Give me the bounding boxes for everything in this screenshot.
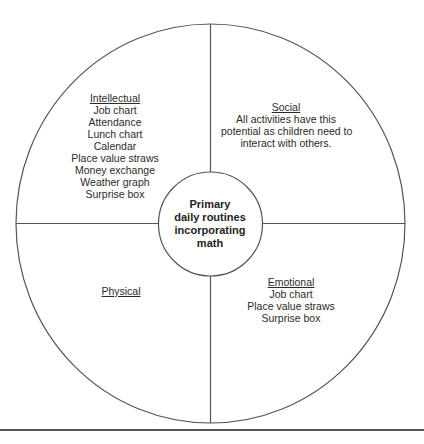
list-item: Surprise box bbox=[55, 188, 175, 200]
quadrant-social: Social All activities have this potentia… bbox=[221, 101, 351, 149]
quadrant-physical: Physical bbox=[81, 285, 161, 297]
list-item: Attendance bbox=[55, 116, 175, 128]
quadrant-heading: Physical bbox=[81, 285, 161, 297]
list-item: Calendar bbox=[55, 140, 175, 152]
quadrant-emotional: Emotional Job chart Place value straws S… bbox=[241, 276, 341, 324]
list-item: Surprise box bbox=[241, 312, 341, 324]
list-item: potential as children need to bbox=[221, 125, 351, 137]
list-item: Place value straws bbox=[241, 300, 341, 312]
quadrant-heading: Intellectual bbox=[55, 92, 175, 104]
list-item: Money exchange bbox=[55, 164, 175, 176]
list-item: interact with others. bbox=[221, 137, 351, 149]
center-line: Primary bbox=[160, 198, 260, 211]
center-label: Primary daily routines incorporating mat… bbox=[160, 198, 260, 250]
list-item: Place value straws bbox=[55, 152, 175, 164]
list-item: Weather graph bbox=[55, 176, 175, 188]
list-item: All activities have this bbox=[221, 113, 351, 125]
center-line: daily routines bbox=[160, 211, 260, 224]
list-item: Job chart bbox=[55, 104, 175, 116]
quadrant-heading: Social bbox=[221, 101, 351, 113]
quadrant-heading: Emotional bbox=[241, 276, 341, 288]
list-item: Job chart bbox=[241, 288, 341, 300]
center-line: incorporating bbox=[160, 224, 260, 237]
list-item: Lunch chart bbox=[55, 128, 175, 140]
quadrant-intellectual: Intellectual Job chart Attendance Lunch … bbox=[55, 92, 175, 200]
bottom-rule bbox=[0, 429, 424, 431]
center-line: math bbox=[160, 237, 260, 250]
